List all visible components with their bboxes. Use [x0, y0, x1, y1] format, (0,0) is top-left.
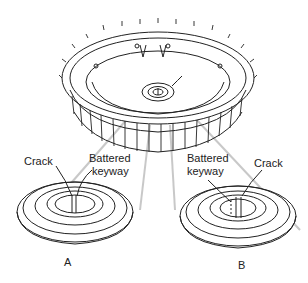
label-b-battered: Battered: [187, 152, 229, 164]
label-a-battered: Battered: [89, 152, 131, 164]
label-a-crack: Crack: [24, 155, 53, 167]
label-b-keyway: keyway: [187, 165, 224, 177]
caption-a: A: [64, 256, 71, 268]
label-b-crack: Crack: [254, 157, 283, 169]
caption-b: B: [238, 259, 245, 271]
detail-b-bearing: [180, 170, 296, 248]
label-a-keyway: keyway: [92, 165, 129, 177]
diagram-canvas: Crack Battered keyway A Battered keyway …: [0, 0, 308, 283]
flywheel: [59, 18, 257, 152]
flywheel-diagram: [0, 0, 308, 283]
